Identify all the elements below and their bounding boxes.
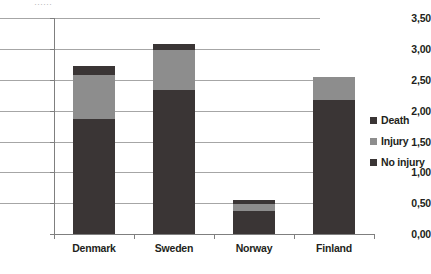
- bar-segment-death: [73, 66, 115, 75]
- x-category-label-denmark: Denmark: [54, 242, 134, 254]
- legend-item-no-injury[interactable]: No injury: [370, 152, 431, 173]
- bar-segment-injury: [73, 75, 115, 119]
- legend-label-injury: Injury: [381, 136, 408, 147]
- bar-denmark[interactable]: [73, 66, 115, 234]
- y-tick-label-0-00: 0,00: [385, 229, 431, 240]
- plot-area: [54, 18, 374, 234]
- y-tick-label-3-50: 3,50: [385, 13, 431, 24]
- bar-sweden[interactable]: [153, 44, 195, 234]
- bar-segment-no-injury: [153, 90, 195, 234]
- stacked-bar-chart: ······ 3,50 3,00 2,50 2,00 1,50 1,00 0,5…: [0, 0, 431, 274]
- x-tick-mark: [214, 234, 215, 239]
- bar-norway[interactable]: [233, 200, 275, 234]
- bar-segment-injury: [153, 50, 195, 90]
- chart-title-cropped: ······: [34, 0, 174, 5]
- legend-label-no-injury: No injury: [381, 157, 425, 168]
- legend-swatch-death: [370, 117, 377, 124]
- bar-segment-death: [233, 200, 275, 204]
- chart-legend: Death Injury No injury: [370, 110, 431, 173]
- y-tick-label-2-50: 2,50: [385, 75, 431, 86]
- bar-segment-injury: [313, 77, 355, 100]
- legend-swatch-no-injury: [370, 159, 377, 166]
- legend-swatch-injury: [370, 138, 377, 145]
- x-tick-mark: [54, 234, 55, 239]
- x-category-label-sweden: Sweden: [134, 242, 214, 254]
- bar-segment-no-injury: [73, 119, 115, 234]
- x-category-label-finland: Finland: [294, 242, 374, 254]
- legend-item-injury[interactable]: Injury: [370, 131, 431, 152]
- y-tick-label-0-50: 0,50: [385, 198, 431, 209]
- bar-segment-no-injury: [233, 211, 275, 234]
- bar-segment-no-injury: [313, 100, 355, 234]
- bar-segment-death: [153, 44, 195, 50]
- x-tick-mark: [134, 234, 135, 239]
- x-tick-mark: [374, 234, 375, 239]
- bar-segment-injury: [233, 204, 275, 211]
- bar-finland[interactable]: [313, 77, 355, 234]
- legend-item-death[interactable]: Death: [370, 110, 431, 131]
- x-tick-mark: [294, 234, 295, 239]
- y-tick-label-3-00: 3,00: [385, 44, 431, 55]
- x-category-label-norway: Norway: [214, 242, 294, 254]
- legend-label-death: Death: [381, 115, 409, 126]
